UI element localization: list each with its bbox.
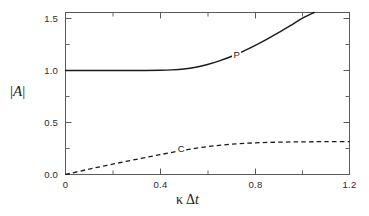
y-tick-label-1: 1.5: [18, 13, 58, 24]
y-axis-title: |A|: [10, 83, 25, 100]
x-axis-title-delta: Δ: [186, 192, 195, 207]
x-axis-minor-ticks: [113, 13, 303, 175]
x-axis-title-t: t: [195, 192, 199, 207]
x-tick-label-3: 0.8: [235, 179, 276, 190]
y-axis-major-ticks: [66, 19, 350, 175]
series-p-label: P: [232, 50, 241, 60]
y-tick-label-2: 1.0: [18, 65, 58, 76]
series-c-dashed-line: [66, 142, 350, 175]
x-tick-label-2: 0.4: [140, 179, 181, 190]
y-tick-label-3: 0.5: [18, 117, 58, 128]
x-axis-major-ticks: [66, 13, 350, 175]
x-tick-label-4: 1.2: [329, 179, 369, 190]
y-axis-title-letter: A: [13, 83, 22, 99]
axis-frame: [66, 13, 350, 175]
x-axis-title: κΔt: [176, 192, 199, 208]
figure-container: 1.5 1.0 0.5 0.0 0 0.4 0.8 1.2 |A| κΔt P …: [0, 0, 369, 216]
y-axis-title-bar-right: |: [22, 83, 25, 99]
y-axis-minor-ticks: [66, 45, 350, 149]
series-p-solid-line: [66, 13, 315, 71]
x-axis-title-kappa: κ: [176, 192, 183, 207]
series-c-label: C: [176, 144, 186, 154]
x-tick-label-1: 0: [45, 179, 86, 190]
